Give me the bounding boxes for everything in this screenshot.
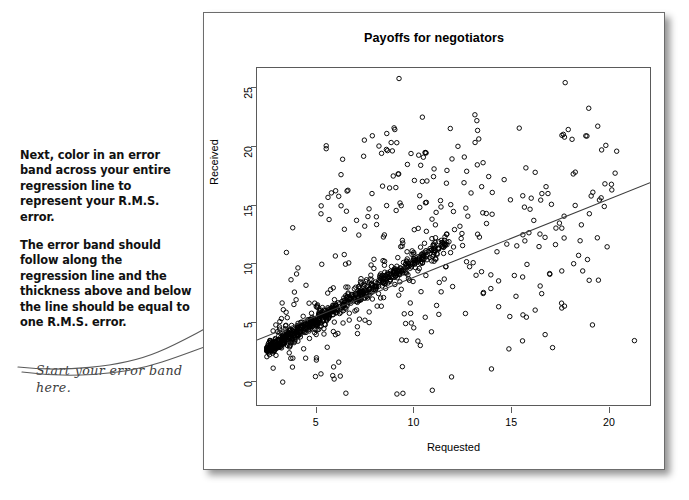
x-tick-label: 10 bbox=[407, 416, 419, 428]
x-axis-title: Requested bbox=[256, 441, 651, 453]
x-tick-mark bbox=[511, 407, 512, 413]
instruction-paragraph-1: Next, color in an error band across your… bbox=[20, 148, 192, 225]
figure-card: Payoffs for negotiators Received Request… bbox=[203, 12, 665, 470]
x-tick-mark bbox=[609, 407, 610, 413]
handwritten-annotation-note: Start your error band here. bbox=[36, 362, 196, 396]
x-tick-label: 20 bbox=[603, 416, 615, 428]
y-tick-label: 0 bbox=[242, 381, 254, 387]
y-tick-label: 5 bbox=[242, 322, 254, 328]
y-axis-title: Received bbox=[208, 139, 220, 185]
instruction-text-block: Next, color in an error band across your… bbox=[20, 148, 192, 330]
x-tick-mark bbox=[316, 407, 317, 413]
y-tick-label: 20 bbox=[242, 146, 254, 158]
y-tick-label: 10 bbox=[242, 263, 254, 275]
regression-line bbox=[257, 183, 650, 340]
y-tick-label: 15 bbox=[242, 205, 254, 217]
x-tick-label: 15 bbox=[505, 416, 517, 428]
x-tick-mark bbox=[413, 407, 414, 413]
instruction-paragraph-2: The error band should follow along the r… bbox=[20, 238, 192, 330]
y-tick-label: 25 bbox=[242, 87, 254, 99]
plot-area: 05101520255101520 bbox=[256, 67, 651, 406]
scatter-plot-svg bbox=[257, 68, 650, 405]
chart-title: Payoffs for negotiators bbox=[204, 31, 664, 45]
x-tick-label: 5 bbox=[313, 416, 319, 428]
